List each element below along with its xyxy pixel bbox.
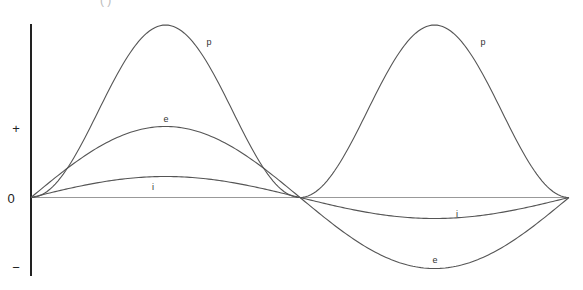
curve-label-p-1: p (206, 37, 211, 47)
y-axis-plus-label: + (12, 121, 20, 136)
curve-label-e-2: e (432, 255, 437, 265)
power-curve-p (31, 25, 569, 198)
power-waveform-diagram: ( ) + 0 − p p e e i i (0, 0, 583, 290)
curve-label-e-1: e (163, 114, 168, 124)
curve-label-i-2: i (456, 209, 458, 219)
title-fragment: ( ) (100, 0, 111, 7)
y-axis-minus-label: − (12, 260, 20, 275)
y-axis-zero-label: 0 (7, 191, 14, 206)
curve-label-p-2: p (480, 37, 485, 47)
curve-label-i-1: i (152, 182, 154, 192)
